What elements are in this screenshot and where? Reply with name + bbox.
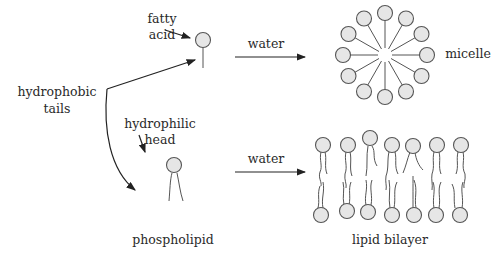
- hydrophobic-tails-label-line2: tails: [44, 101, 71, 116]
- water-label-top: water: [248, 36, 285, 51]
- hydrophilic-head-label-line2: head: [145, 132, 176, 147]
- fatty-acid-label-line2: acid: [149, 27, 175, 42]
- lipid-bilayer: [314, 131, 469, 223]
- phospholipid-molecule: [167, 158, 184, 202]
- amphipathic-lipids-diagram: fatty acid hydrophobic tails hydrophilic…: [0, 0, 502, 258]
- hydrophilic-head-label-line1: hydrophilic: [124, 116, 196, 131]
- lipid-bilayer-label: lipid bilayer: [352, 232, 428, 247]
- phospholipid-label: phospholipid: [132, 232, 214, 247]
- water-label-bottom: water: [248, 151, 285, 166]
- fatty-acid-label-line1: fatty: [147, 11, 177, 26]
- hydrophobic-tails-label-line1: hydrophobic: [17, 84, 96, 99]
- fatty-acid-molecule: [196, 33, 211, 69]
- micelle: [336, 6, 435, 105]
- micelle-label: micelle: [445, 46, 491, 61]
